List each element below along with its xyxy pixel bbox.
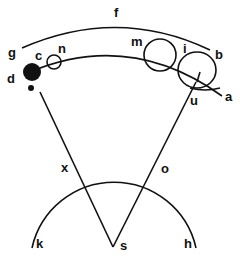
line-s-to-u: [113, 82, 196, 247]
label-x: x: [61, 160, 69, 175]
line-s-to-e: [40, 92, 113, 247]
circle-m: [144, 39, 176, 71]
label-a: a: [225, 89, 233, 104]
point-e-dot: [28, 85, 34, 91]
label-s: s: [120, 238, 127, 253]
label-b: b: [215, 47, 223, 62]
label-k: k: [36, 236, 44, 251]
circle-iu: [178, 52, 216, 88]
diagram-canvas: f g c n d m i b u a x o k s h: [0, 0, 240, 268]
label-i: i: [183, 41, 187, 56]
label-d: d: [7, 71, 15, 86]
label-m: m: [131, 34, 143, 49]
label-o: o: [161, 161, 169, 176]
label-g: g: [8, 45, 16, 60]
label-f: f: [114, 5, 119, 20]
label-c: c: [35, 48, 42, 63]
lower-arc-kh: [32, 182, 196, 248]
label-n: n: [58, 41, 66, 56]
outer-arc-gfb: [22, 27, 210, 50]
label-h: h: [184, 236, 192, 251]
filled-body-circle: [23, 63, 41, 81]
inner-arc-da: [30, 56, 222, 96]
chord-to-a: [190, 88, 220, 90]
label-u: u: [190, 93, 198, 108]
